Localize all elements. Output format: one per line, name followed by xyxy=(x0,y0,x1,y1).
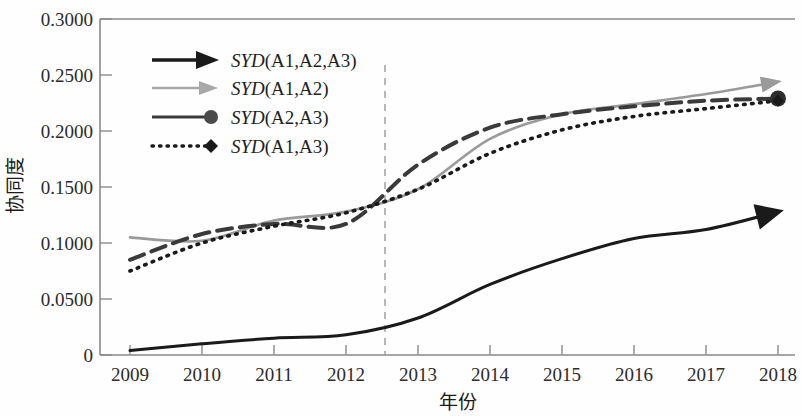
arrow-icon xyxy=(196,51,219,69)
x-tick-label: 2014 xyxy=(471,364,510,385)
x-axis-label: 年份 xyxy=(439,392,477,413)
series-syd-a1-a3 xyxy=(130,95,784,271)
legend-item-syd-a1a2a3[interactable]: SYD(A1,A2,A3) xyxy=(152,50,357,72)
series-syd-a1-a2-a3 xyxy=(130,198,787,351)
y-tick-label: 0.1500 xyxy=(41,177,93,198)
diamond-marker-icon xyxy=(204,139,218,153)
arrow-icon xyxy=(754,198,787,230)
legend-item-syd-a2a3[interactable]: SYD(A2,A3) xyxy=(152,107,329,129)
y-axis-label: 协同度 xyxy=(5,157,26,214)
x-tick-label: 2017 xyxy=(687,364,725,385)
x-tick-label: 2011 xyxy=(255,364,292,385)
legend-label-syd-a1a3: SYD(A1,A3) xyxy=(231,136,329,158)
series-line xyxy=(130,212,778,351)
x-tick-label: 2018 xyxy=(759,364,797,385)
legend-label-syd-a2a3: SYD(A2,A3) xyxy=(231,107,329,129)
legend-item-syd-a1a3[interactable]: SYD(A1,A3) xyxy=(152,136,329,158)
x-axis-ticks xyxy=(130,345,778,355)
y-tick-label: 0.1000 xyxy=(41,233,93,254)
series-syd-a1-a2 xyxy=(130,73,783,241)
x-tick-label: 2009 xyxy=(111,364,149,385)
arrow-icon xyxy=(199,81,218,95)
legend-label-syd-a1a2a3: SYD(A1,A2,A3) xyxy=(231,50,357,72)
y-tick-label: 0.2000 xyxy=(41,121,93,142)
y-axis-ticks xyxy=(100,19,112,355)
series-line xyxy=(130,101,778,271)
series-layer xyxy=(130,73,787,350)
arrow-icon xyxy=(760,73,783,92)
legend-label-syd-a1a2: SYD(A1,A2) xyxy=(231,78,329,100)
x-tick-label: 2013 xyxy=(399,364,437,385)
series-line xyxy=(130,82,778,242)
legend-item-syd-a1a2[interactable]: SYD(A1,A2) xyxy=(152,78,329,100)
x-tick-label: 2012 xyxy=(327,364,365,385)
circle-marker-icon xyxy=(204,110,218,124)
y-tick-labels: 0 0.0500 0.1000 0.1500 0.2000 0.2500 0.3… xyxy=(41,9,93,366)
y-tick-label: 0 xyxy=(84,345,94,366)
chart-figure: 0 0.0500 0.1000 0.1500 0.2000 0.2500 0.3… xyxy=(0,0,802,416)
x-tick-labels: 2009 2010 2011 2012 2013 2014 2015 2016 … xyxy=(111,364,797,385)
legend: SYD(A1,A2,A3) SYD(A1,A2) SYD(A2,A3) xyxy=(152,50,357,158)
x-tick-label: 2016 xyxy=(615,364,653,385)
y-tick-label: 0.2500 xyxy=(41,65,93,86)
y-tick-label: 0.3000 xyxy=(41,9,93,30)
x-tick-label: 2015 xyxy=(543,364,581,385)
y-tick-label: 0.0500 xyxy=(41,289,93,310)
x-tick-label: 2010 xyxy=(183,364,221,385)
coordination-degree-line-chart: 0 0.0500 0.1000 0.1500 0.2000 0.2500 0.3… xyxy=(0,0,802,416)
